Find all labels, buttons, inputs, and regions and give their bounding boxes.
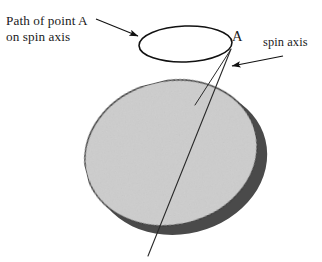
label-spin-axis: spin axis: [263, 35, 308, 50]
spin-axis-diagram: Path of point Aon spin axis A spin axis: [0, 0, 322, 262]
sphere-group: [69, 62, 283, 253]
leader-line-spin-axis: [232, 56, 283, 66]
label-path-of-point-a-line2: on spin axis: [6, 29, 70, 44]
label-path-of-point-a-line1: Path of point A: [6, 13, 88, 28]
label-point-a: A: [232, 28, 243, 45]
label-path-of-point-a: Path of point Aon spin axis: [6, 13, 88, 44]
leader-line-path-of-point-a: [96, 19, 138, 36]
path-of-point-A-ellipse: [138, 24, 232, 63]
sphere-body: [69, 62, 273, 244]
